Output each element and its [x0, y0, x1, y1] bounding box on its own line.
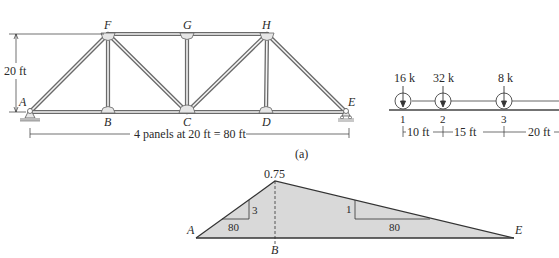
spacing-label-2: 15 ft	[454, 125, 477, 139]
spacing-label-1: 10 ft	[407, 125, 430, 139]
influence-line	[196, 181, 514, 245]
right-slope-rise: 1	[346, 203, 352, 215]
left-slope-rise: 3	[252, 204, 258, 216]
truss-diagram-canvas: A B C D E F G H 20 ft 4 panels at 20 ft …	[0, 0, 559, 258]
height-dimension-label: 20 ft	[4, 64, 27, 78]
node-label-D: D	[261, 115, 271, 129]
spacing-label-3: 20 ft	[528, 125, 551, 139]
influence-label-E: E	[514, 223, 523, 237]
wheel-number-2: 2	[440, 113, 446, 125]
wheel-number-3: 3	[501, 113, 507, 125]
load-label-3: 8 k	[498, 71, 513, 85]
left-slope-run: 80	[228, 221, 240, 233]
node-label-H: H	[261, 18, 272, 32]
span-dimension-label: 4 panels at 20 ft = 80 ft	[134, 127, 246, 141]
node-label-A: A	[18, 95, 27, 109]
wheel-number-1: 1	[400, 113, 406, 125]
gusset-H	[260, 33, 274, 41]
load-train	[389, 86, 559, 110]
node-label-G: G	[183, 18, 192, 32]
right-slope-run: 80	[389, 221, 401, 233]
load-label-1: 16 k	[394, 71, 415, 85]
truss-members	[30, 34, 346, 112]
load-arrows	[401, 86, 507, 107]
node-label-B: B	[104, 115, 112, 129]
gusset-G	[180, 33, 194, 40]
load-label-2: 32 k	[433, 71, 454, 85]
figure-caption-a: (a)	[295, 147, 308, 161]
gusset-D	[259, 107, 273, 114]
node-label-E: E	[347, 95, 356, 109]
influence-label-A: A	[186, 223, 195, 237]
truss	[20, 33, 354, 122]
influence-peak-value: 0.75	[264, 167, 285, 181]
node-label-F: F	[103, 18, 112, 32]
gusset-B	[101, 107, 115, 114]
influence-label-B: B	[271, 243, 279, 257]
